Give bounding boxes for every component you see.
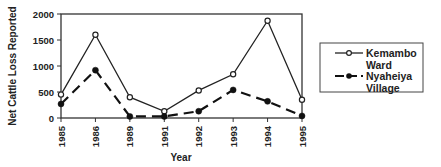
legend-label: Kemambo <box>366 47 417 59</box>
x-tick-label: 1991 <box>159 125 170 147</box>
legend: KemamboWardNyaheiyaVillage <box>320 43 423 94</box>
open-circle-marker-icon <box>58 92 63 97</box>
filled-circle-marker-icon <box>161 113 167 119</box>
open-circle-marker-icon <box>231 72 236 77</box>
x-axis: 19851986198919911992199319941995 <box>56 118 308 147</box>
open-circle-marker-icon <box>347 51 352 56</box>
x-axis-title: Year <box>170 152 191 163</box>
filled-circle-marker-icon <box>58 101 64 107</box>
y-tick-label: 1000 <box>33 61 54 72</box>
x-tick-label: 1985 <box>56 125 67 147</box>
x-tick-label: 1986 <box>90 126 101 147</box>
x-tick-label: 1989 <box>124 126 135 147</box>
y-axis-title: Net Cattle Loss Reported <box>7 6 18 125</box>
x-tick-label: 1995 <box>297 125 308 147</box>
open-circle-marker-icon <box>299 97 304 102</box>
x-tick-label: 1993 <box>228 126 239 147</box>
legend-label: Nyaheiya <box>366 70 412 82</box>
open-circle-marker-icon <box>265 18 270 23</box>
filled-circle-marker-icon <box>127 113 133 119</box>
open-circle-marker-icon <box>162 109 167 114</box>
line-chart: 0500100015002000 19851986198919911992199… <box>0 0 441 167</box>
y-tick-label: 0 <box>49 113 54 124</box>
open-circle-marker-icon <box>196 88 201 93</box>
filled-circle-marker-icon <box>299 113 305 119</box>
series-layer <box>58 18 305 119</box>
open-circle-marker-icon <box>93 32 98 37</box>
filled-circle-marker-icon <box>230 87 236 93</box>
y-axis: 0500100015002000 <box>33 9 61 124</box>
legend-label: Village <box>366 82 400 94</box>
filled-circle-marker-icon <box>196 108 202 114</box>
filled-circle-marker-icon <box>265 98 271 104</box>
y-tick-label: 1500 <box>33 35 54 46</box>
series-line <box>61 70 302 116</box>
open-circle-marker-icon <box>127 95 132 100</box>
series-nyaheiya-village <box>58 67 305 119</box>
filled-circle-marker-icon <box>346 73 352 79</box>
filled-circle-marker-icon <box>92 67 98 73</box>
y-tick-label: 2000 <box>33 9 54 20</box>
y-tick-label: 500 <box>38 87 54 98</box>
x-tick-label: 1992 <box>193 126 204 147</box>
x-tick-label: 1994 <box>262 125 273 147</box>
